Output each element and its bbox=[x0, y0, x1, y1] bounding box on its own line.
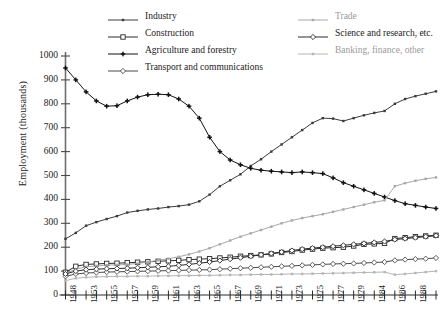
data-point bbox=[198, 200, 200, 202]
data-point bbox=[270, 225, 272, 227]
data-point bbox=[176, 263, 181, 268]
data-point bbox=[330, 261, 335, 266]
data-point bbox=[197, 267, 202, 272]
x-tick-label: 1973 bbox=[295, 285, 304, 303]
x-tick-label: 1965 bbox=[213, 285, 222, 303]
data-point bbox=[198, 250, 200, 252]
data-point bbox=[414, 95, 416, 97]
data-point bbox=[425, 271, 427, 273]
data-point bbox=[404, 182, 406, 184]
data-point bbox=[341, 180, 346, 185]
data-point bbox=[188, 203, 190, 205]
data-point bbox=[291, 273, 293, 275]
data-point bbox=[331, 176, 336, 181]
data-point bbox=[167, 257, 169, 259]
data-point bbox=[393, 198, 398, 203]
data-point bbox=[219, 185, 221, 187]
y-axis-label: Employment (thousands) bbox=[17, 46, 28, 221]
chart-plot-area: Employment (thousands) 01002003004005006… bbox=[0, 0, 441, 335]
chart-figure: IndustryConstructionAgriculture and fore… bbox=[0, 0, 441, 335]
data-point bbox=[250, 232, 252, 234]
data-point bbox=[404, 273, 406, 275]
data-point bbox=[94, 267, 99, 272]
data-point bbox=[126, 275, 128, 277]
y-tick-label: 800 bbox=[28, 99, 58, 109]
data-point bbox=[280, 222, 282, 224]
data-point bbox=[425, 178, 427, 180]
data-point bbox=[301, 129, 303, 131]
data-point bbox=[85, 224, 87, 226]
data-point bbox=[219, 243, 221, 245]
data-point bbox=[135, 265, 140, 270]
data-point bbox=[83, 267, 88, 272]
data-point bbox=[186, 262, 191, 267]
data-point bbox=[310, 262, 315, 267]
y-tick-label: 900 bbox=[28, 75, 58, 85]
data-point bbox=[280, 273, 282, 275]
data-point bbox=[382, 259, 387, 264]
data-point bbox=[435, 176, 437, 178]
data-point bbox=[75, 277, 77, 279]
data-point bbox=[188, 274, 190, 276]
data-point bbox=[425, 93, 427, 95]
data-point bbox=[383, 110, 385, 112]
data-point bbox=[322, 117, 324, 119]
data-point bbox=[147, 261, 149, 263]
data-point bbox=[320, 171, 325, 176]
data-point bbox=[104, 266, 109, 271]
data-point bbox=[198, 274, 200, 276]
data-point bbox=[372, 260, 377, 265]
data-point bbox=[311, 215, 313, 217]
data-point bbox=[177, 258, 181, 262]
data-point bbox=[208, 247, 210, 249]
data-point bbox=[423, 256, 428, 261]
data-point bbox=[75, 232, 77, 234]
y-tick-label: 400 bbox=[28, 194, 58, 204]
data-point bbox=[300, 170, 305, 175]
data-point bbox=[363, 271, 365, 273]
x-tick-label: 1959 bbox=[151, 285, 160, 303]
x-tick-label: 1953 bbox=[90, 285, 99, 303]
data-point bbox=[260, 273, 262, 275]
data-point bbox=[207, 267, 212, 272]
data-point bbox=[186, 268, 191, 273]
data-point bbox=[259, 168, 264, 173]
data-point bbox=[147, 275, 149, 277]
data-point bbox=[413, 257, 418, 262]
data-point bbox=[280, 143, 282, 145]
data-point bbox=[74, 264, 78, 268]
data-point bbox=[352, 272, 354, 274]
y-tick-label: 500 bbox=[28, 171, 58, 181]
y-tick-label: 700 bbox=[28, 123, 58, 133]
data-point bbox=[157, 207, 159, 209]
data-point bbox=[300, 263, 305, 268]
x-tick-label: 1969 bbox=[254, 285, 263, 303]
data-point bbox=[414, 272, 416, 274]
data-point bbox=[433, 255, 438, 260]
data-point bbox=[167, 206, 169, 208]
data-point bbox=[95, 221, 97, 223]
y-tick-label: 100 bbox=[28, 266, 58, 276]
y-tick-label: 200 bbox=[28, 242, 58, 252]
data-point bbox=[414, 180, 416, 182]
data-point bbox=[166, 264, 171, 269]
y-tick-label: 1000 bbox=[28, 51, 58, 61]
x-tick-label: 1975 bbox=[316, 285, 325, 303]
data-point bbox=[394, 185, 396, 187]
data-point bbox=[208, 274, 210, 276]
data-point bbox=[116, 275, 118, 277]
data-point bbox=[351, 261, 356, 266]
data-point bbox=[126, 211, 128, 213]
x-tick-label: 1986 bbox=[398, 285, 407, 303]
data-point bbox=[269, 169, 274, 174]
x-tick-label: 1961 bbox=[172, 285, 181, 303]
data-point bbox=[279, 264, 284, 269]
data-point bbox=[363, 203, 365, 205]
data-point bbox=[383, 199, 385, 201]
x-tick-label: 1988 bbox=[419, 285, 428, 303]
data-point bbox=[188, 253, 190, 255]
data-point bbox=[342, 272, 344, 274]
data-point bbox=[413, 203, 418, 208]
data-point bbox=[270, 150, 272, 152]
data-point bbox=[373, 201, 375, 203]
